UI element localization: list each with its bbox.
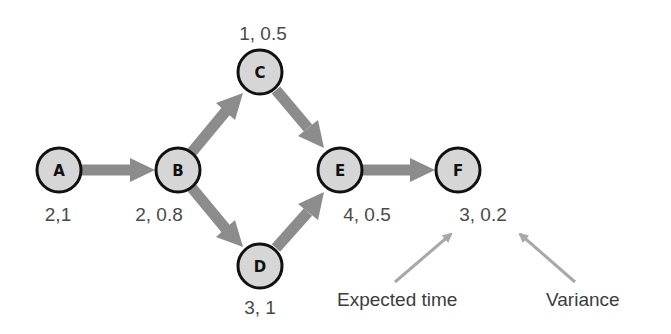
node-c-values: 1, 0.5: [239, 23, 287, 44]
node-d-label: D: [254, 258, 266, 276]
expected-time-arrow: [395, 234, 451, 282]
edge-a-b: [82, 158, 155, 182]
node-a-label: A: [53, 162, 65, 180]
node-e-label: E: [335, 162, 345, 180]
variance-label: Variance: [546, 289, 620, 310]
node-d: D: [238, 244, 282, 288]
node-f-values: 3, 0.2: [459, 204, 507, 225]
node-c: C: [238, 50, 282, 94]
expected-time-label: Expected time: [337, 289, 457, 310]
edge-b-c: [192, 93, 243, 152]
node-e-values: 4, 0.5: [343, 204, 391, 225]
pert-network-diagram: A B C D E F 2,1 2, 0.8 1, 0.5 3, 1 4, 0.…: [0, 0, 671, 334]
node-b-values: 2, 0.8: [135, 204, 183, 225]
node-a: A: [37, 148, 81, 192]
edge-d-e: [276, 192, 324, 248]
node-a-values: 2,1: [45, 204, 71, 225]
edge-e-f: [363, 158, 435, 182]
node-d-values: 3, 1: [244, 297, 276, 318]
edge-c-e: [276, 90, 324, 148]
node-f-label: F: [453, 162, 463, 180]
node-b: B: [156, 148, 200, 192]
edge-b-d: [192, 188, 243, 247]
node-e: E: [318, 148, 362, 192]
node-f: F: [436, 148, 480, 192]
node-c-label: C: [254, 64, 265, 82]
variance-arrow: [520, 234, 575, 282]
node-b-label: B: [172, 162, 183, 180]
